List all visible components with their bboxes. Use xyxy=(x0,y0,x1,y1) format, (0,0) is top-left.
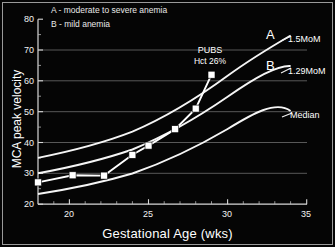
data-point-marker xyxy=(129,151,136,158)
legend-entry-a: A - moderate to severe anemia xyxy=(51,5,167,15)
annotation-pubs-title: PUBS xyxy=(182,45,238,56)
x-axis-title: Gestational Age (wks) xyxy=(0,226,335,241)
x-tick-label-25: 25 xyxy=(136,209,160,219)
data-point-marker xyxy=(208,71,215,78)
curve-1-5-mom xyxy=(38,36,291,158)
curve-label-leaders xyxy=(281,36,292,117)
patient-series-line xyxy=(38,75,212,183)
annotation-pubs-detail: Hct 26% xyxy=(182,56,238,67)
x-tick-label-35: 35 xyxy=(294,209,318,219)
data-point-marker xyxy=(101,172,108,179)
y-tick-label-20: 20 xyxy=(16,199,34,209)
x-tick-label-30: 30 xyxy=(215,209,239,219)
chart-plot-area xyxy=(0,0,335,247)
curve-median xyxy=(38,107,291,194)
x-tick-label-20: 20 xyxy=(57,209,81,219)
x-major-ticks xyxy=(69,199,306,204)
curve-label-median: Median xyxy=(290,110,320,120)
data-point-marker xyxy=(192,105,199,112)
y-major-ticks xyxy=(38,19,43,204)
curve-label-a: A xyxy=(266,27,275,42)
chart-figure: A - moderate to severe anemia B - mild a… xyxy=(0,0,335,247)
y-axis-title: MCA peak velocity xyxy=(10,44,24,194)
annotation-pubs: PUBS Hct 26% xyxy=(182,45,238,67)
curve-label-b: B xyxy=(266,58,275,73)
data-point-marker xyxy=(172,126,179,133)
data-point-marker xyxy=(145,142,152,149)
legend-entry-b: B - mild anemia xyxy=(51,19,110,29)
curve-1-29-mom xyxy=(38,66,291,173)
y-tick-label-80: 80 xyxy=(16,14,34,24)
curve-label-1-5-mom: 1.5MoM xyxy=(288,34,321,44)
data-point-marker xyxy=(35,179,42,186)
data-point-marker xyxy=(69,172,76,179)
curve-label-1-29-mom: 1.29MoM xyxy=(288,66,326,76)
